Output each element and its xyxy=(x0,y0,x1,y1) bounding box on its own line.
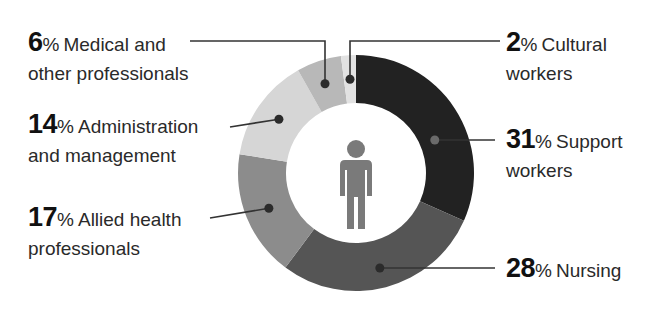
marker-admin xyxy=(274,115,283,124)
marker-allied xyxy=(264,204,273,213)
label-medical: 6%Medical and other professionals xyxy=(28,28,189,88)
label-cultural: 2%Cultural workers xyxy=(506,28,607,88)
label-nursing: 28%Nursing xyxy=(506,254,621,285)
slice-nursing xyxy=(285,201,463,291)
marker-support xyxy=(430,136,439,145)
label-support: 31%Support workers xyxy=(506,125,623,185)
person-icon xyxy=(340,140,372,229)
label-admin: 14%Administration and management xyxy=(28,110,198,170)
label-allied: 17%Allied health professionals xyxy=(28,203,181,263)
marker-medical xyxy=(321,79,330,88)
marker-cultural xyxy=(346,75,355,84)
slice-support xyxy=(356,55,474,221)
marker-nursing xyxy=(375,264,384,273)
